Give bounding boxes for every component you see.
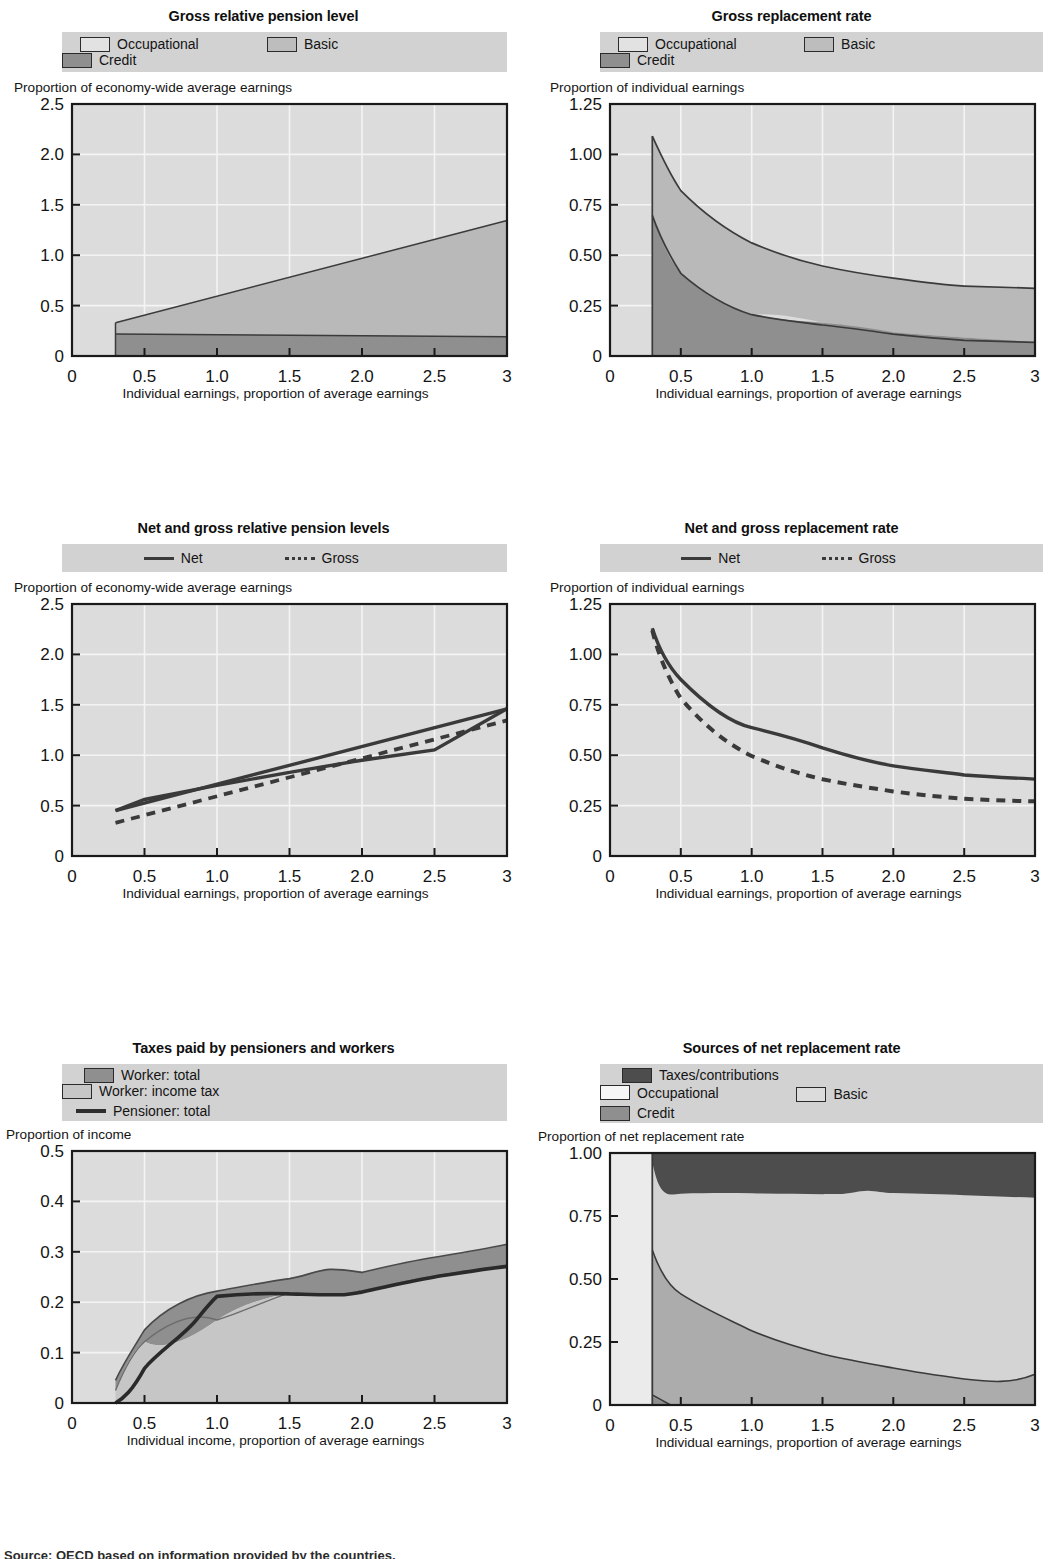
legend-item-occupational[interactable]: Occupational — [62, 36, 267, 52]
svg-text:0: 0 — [593, 347, 602, 366]
svg-text:3: 3 — [502, 867, 511, 886]
y-tick-labels: 0.5 0.4 0.3 0.2 0.1 0 — [40, 1145, 64, 1413]
svg-text:2.5: 2.5 — [40, 598, 64, 614]
svg-text:2.5: 2.5 — [952, 367, 976, 386]
x-tick-labels: 0 0.5 1.0 1.5 2.0 2.5 3 — [605, 1416, 1039, 1435]
chart-title: Net and gross replacement rate — [528, 518, 1055, 538]
svg-text:2.0: 2.0 — [40, 645, 64, 664]
plot-area: 1.25 1.00 0.75 0.50 0.25 0 0 0.5 1.0 1.5… — [528, 598, 1055, 888]
legend-item-credit[interactable]: Credit — [600, 1105, 790, 1121]
y-axis-title: Proportion of income — [6, 1126, 527, 1144]
svg-text:0.5: 0.5 — [669, 867, 693, 886]
legend-item-gross[interactable]: Gross — [822, 550, 1035, 566]
legend-swatch-occupational — [618, 37, 648, 52]
legend-swatch-worker-income-tax — [62, 1084, 92, 1099]
svg-text:1.0: 1.0 — [740, 367, 764, 386]
svg-text:1.5: 1.5 — [40, 196, 64, 215]
legend-item-credit[interactable]: Credit — [600, 52, 715, 68]
legend-label: Credit — [637, 1105, 674, 1121]
svg-text:0: 0 — [605, 867, 614, 886]
svg-text:0: 0 — [67, 1414, 76, 1433]
svg-text:0.75: 0.75 — [569, 1207, 602, 1226]
legend-item-basic[interactable]: Basic — [267, 36, 401, 52]
legend-item-basic[interactable]: Basic — [790, 1086, 1040, 1102]
x-axis-title: Individual earnings, proportion of avera… — [0, 886, 527, 901]
svg-text:0.25: 0.25 — [569, 1333, 602, 1352]
figure-page: Gross relative pension level Occupationa… — [0, 0, 1055, 1559]
svg-text:3: 3 — [1030, 867, 1039, 886]
svg-text:1.00: 1.00 — [569, 1147, 602, 1163]
legend-item-gross[interactable]: Gross — [285, 550, 499, 566]
chart-legend: Worker: total Worker: income tax Pension… — [62, 1064, 507, 1121]
legend-swatch-credit — [600, 53, 630, 68]
panel-sources-of-net-replacement-rate: Sources of net replacement rate Taxes/co… — [528, 1032, 1055, 1450]
y-axis-title: Proportion of net replacement rate — [538, 1128, 1055, 1146]
legend-label: Basic — [833, 1086, 867, 1102]
svg-text:0: 0 — [605, 1416, 614, 1435]
svg-text:1.5: 1.5 — [811, 867, 835, 886]
legend-label: Gross — [322, 550, 359, 566]
y-axis-title: Proportion of individual earnings — [550, 579, 1055, 597]
legend-item-taxes-contributions[interactable]: Taxes/contributions — [600, 1067, 866, 1083]
chart-svg: 1.25 1.00 0.75 0.50 0.25 0 0 0.5 1.0 1.5… — [528, 98, 1055, 388]
chart-legend: Occupational Basic Credit — [62, 32, 507, 72]
legend-item-basic[interactable]: Basic — [804, 36, 937, 52]
svg-text:1.5: 1.5 — [811, 1416, 835, 1435]
svg-text:1.25: 1.25 — [569, 598, 602, 614]
legend-swatch-net — [681, 557, 711, 560]
svg-text:2.5: 2.5 — [40, 98, 64, 114]
chart-title: Sources of net replacement rate — [528, 1038, 1055, 1058]
plot-area: 2.5 2.0 1.5 1.0 0.5 0 0 0.5 1.0 1.5 2.0 … — [0, 598, 527, 888]
svg-text:0: 0 — [67, 867, 76, 886]
legend-item-net[interactable]: Net — [62, 550, 285, 566]
legend-label: Worker: income tax — [99, 1083, 219, 1099]
svg-text:1.5: 1.5 — [278, 367, 302, 386]
svg-text:3: 3 — [1030, 1416, 1039, 1435]
legend-label: Net — [718, 550, 740, 566]
svg-text:0: 0 — [593, 847, 602, 866]
panel-gross-replacement-rate: Gross replacement rate Occupational Basi… — [528, 0, 1055, 401]
svg-text:0.4: 0.4 — [40, 1192, 64, 1211]
plot-area: 1.25 1.00 0.75 0.50 0.25 0 0 0.5 1.0 1.5… — [528, 98, 1055, 388]
svg-text:2.5: 2.5 — [952, 1416, 976, 1435]
legend-label: Credit — [637, 52, 674, 68]
chart-svg: 1.00 0.75 0.50 0.25 0 0 0.5 1.0 1.5 2.0 … — [528, 1147, 1055, 1437]
svg-text:0: 0 — [55, 847, 64, 866]
legend-swatch-credit — [62, 53, 92, 68]
legend-item-credit[interactable]: Credit — [62, 52, 178, 68]
svg-text:0.25: 0.25 — [569, 297, 602, 316]
legend-swatch-occupational — [600, 1085, 630, 1100]
svg-text:0.75: 0.75 — [569, 196, 602, 215]
legend-swatch-basic — [267, 37, 297, 52]
legend-label: Taxes/contributions — [659, 1067, 779, 1083]
legend-label: Basic — [841, 36, 875, 52]
svg-text:2.0: 2.0 — [881, 1416, 905, 1435]
svg-text:2.5: 2.5 — [423, 367, 447, 386]
svg-text:1.0: 1.0 — [205, 367, 229, 386]
legend-label: Net — [181, 550, 203, 566]
legend-item-worker-income-tax[interactable]: Worker: income tax — [62, 1083, 276, 1099]
legend-swatch-taxes-contributions — [622, 1068, 652, 1083]
legend-label: Occupational — [117, 36, 199, 52]
svg-text:1.5: 1.5 — [278, 867, 302, 886]
chart-svg: 0.5 0.4 0.3 0.2 0.1 0 0 0.5 1.0 1.5 2.0 … — [0, 1145, 527, 1435]
svg-text:0.5: 0.5 — [40, 1145, 64, 1161]
plot-area: 0.5 0.4 0.3 0.2 0.1 0 0 0.5 1.0 1.5 2.0 … — [0, 1145, 527, 1435]
svg-text:0.50: 0.50 — [569, 746, 602, 765]
panel-taxes-paid-by-pensioners-and-workers: Taxes paid by pensioners and workers Wor… — [0, 1032, 527, 1448]
chart-svg: 1.25 1.00 0.75 0.50 0.25 0 0 0.5 1.0 1.5… — [528, 598, 1055, 888]
svg-text:0.5: 0.5 — [133, 367, 157, 386]
svg-text:3: 3 — [502, 1414, 511, 1433]
x-tick-labels: 0 0.5 1.0 1.5 2.0 2.5 3 — [67, 367, 511, 386]
y-tick-labels: 2.5 2.0 1.5 1.0 0.5 0 — [40, 598, 64, 866]
y-axis-title: Proportion of economy-wide average earni… — [14, 79, 527, 97]
chart-legend: Net Gross — [600, 544, 1043, 572]
legend-item-worker-total[interactable]: Worker: total — [62, 1067, 307, 1083]
legend-item-net[interactable]: Net — [600, 550, 822, 566]
svg-text:0.50: 0.50 — [569, 1270, 602, 1289]
x-tick-labels: 0 0.5 1.0 1.5 2.0 2.5 3 — [67, 867, 511, 886]
svg-text:1.5: 1.5 — [278, 1414, 302, 1433]
legend-item-occupational[interactable]: Occupational — [600, 36, 804, 52]
legend-item-occupational[interactable]: Occupational — [600, 1085, 790, 1101]
legend-item-pensioner-total[interactable]: Pensioner: total — [62, 1103, 507, 1119]
